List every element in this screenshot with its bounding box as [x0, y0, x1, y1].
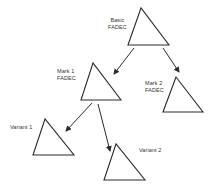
edge-mark1-to-variant1-arrow — [66, 103, 92, 131]
label-basic-line1: Basic — [108, 17, 127, 24]
edge-mark1-to-variant2-arrow — [98, 104, 110, 151]
label-variant1-line1: Variant 1 — [10, 124, 33, 131]
label-variant1: Variant 1 — [10, 124, 33, 131]
label-mark2-line1: Mark 2 — [145, 80, 164, 87]
label-basic-line2: FADEC — [108, 24, 127, 31]
label-variant2-line1: Variant 2 — [139, 147, 162, 154]
label-mark1-line2: FADEC — [57, 75, 76, 82]
edge-basic-to-mark1-arrow — [114, 48, 134, 74]
label-mark1-fadec: Mark 1 FADEC — [57, 68, 76, 81]
node-variant1-triangle — [33, 119, 74, 155]
label-mark1-line1: Mark 1 — [57, 68, 76, 75]
node-mark2-fadec-triangle — [163, 77, 203, 112]
edge-basic-to-mark2-arrow — [163, 48, 179, 72]
label-mark2-fadec: Mark 2 FADEC — [145, 80, 164, 93]
label-basic-fadec: Basic FADEC — [108, 17, 127, 30]
node-mark1-fadec-triangle — [81, 63, 121, 100]
label-mark2-line2: FADEC — [145, 87, 164, 94]
node-basic-fadec-triangle — [128, 8, 169, 45]
label-variant2: Variant 2 — [139, 147, 162, 154]
